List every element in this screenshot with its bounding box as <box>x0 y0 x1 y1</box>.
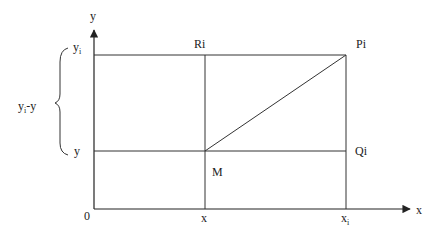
brace-label: yi-y <box>18 99 36 115</box>
brace <box>55 48 68 155</box>
x-axis-label: x <box>416 203 422 217</box>
point-ri-label: Ri <box>194 37 206 51</box>
point-qi-label: Qi <box>355 144 368 158</box>
y-axis-label: y <box>90 9 96 23</box>
tick-yi-label: yi <box>73 40 82 56</box>
tick-x-label: x <box>201 211 207 225</box>
point-pi-label: Pi <box>356 37 367 51</box>
tick-y-label: y <box>74 144 80 158</box>
tick-xi-label: xi <box>341 211 350 227</box>
coordinate-diagram: y x 0 Ri Pi Qi M x xi yi y yi-y <box>0 0 434 239</box>
origin-label: 0 <box>84 209 90 223</box>
segment-m-pi <box>205 55 346 151</box>
point-m-label: M <box>212 165 223 179</box>
